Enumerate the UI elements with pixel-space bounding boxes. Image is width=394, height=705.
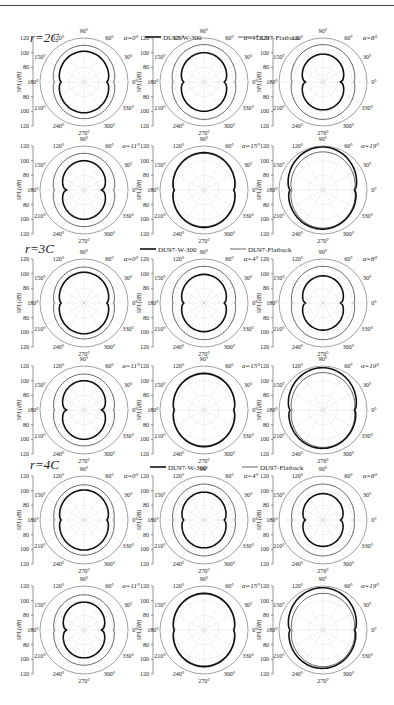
y-axis-label: SPL(dB) xyxy=(256,72,263,93)
angle-label: 210° xyxy=(34,213,46,219)
y-tick-label: 100 xyxy=(20,158,29,164)
curve-du97-w-300 xyxy=(288,147,357,229)
angle-label: 210° xyxy=(34,543,46,549)
alpha-label: α=4° xyxy=(244,34,259,42)
angle-label: 90° xyxy=(80,466,89,472)
polar-panel: 1201008080100120SPL(dB)0°30°60°90°120°15… xyxy=(136,249,259,357)
y-tick-label: 100 xyxy=(20,329,29,335)
alpha-label: α=15° xyxy=(242,142,260,150)
angle-label: 30° xyxy=(124,492,133,498)
angle-label: 210° xyxy=(273,543,285,549)
y-tick-label: 120 xyxy=(140,143,149,149)
polar-panel: 1201008080100120SPL(dB)0°30°60°90°120°15… xyxy=(136,576,260,684)
y-tick-label: 120 xyxy=(20,451,29,457)
y-axis-label: SPL(dB) xyxy=(16,180,23,201)
angle-label: 120° xyxy=(173,143,185,149)
angle-label: 300° xyxy=(104,231,116,237)
y-tick-label: 100 xyxy=(20,546,29,552)
angle-label: 180° xyxy=(27,407,39,413)
angle-label: 180° xyxy=(266,300,278,306)
angle-label: 210° xyxy=(154,653,166,659)
angle-label: 60° xyxy=(344,473,353,479)
angle-label: 300° xyxy=(224,671,236,677)
y-tick-label: 120 xyxy=(260,671,269,677)
y-axis-label: SPL(dB) xyxy=(256,293,263,314)
angle-label: 60° xyxy=(105,473,114,479)
angle-label: 270° xyxy=(198,238,210,244)
angle-label: 180° xyxy=(147,407,159,413)
angle-label: 120° xyxy=(292,583,304,589)
angle-label: 300° xyxy=(343,671,355,677)
angle-label: 210° xyxy=(34,326,46,332)
y-tick-label: 120 xyxy=(20,583,29,589)
polar-panel: 1201008080100120SPL(dB)0°30°60°90°120°15… xyxy=(256,136,379,244)
y-axis-label: SPL(dB) xyxy=(136,510,143,531)
angle-label: 90° xyxy=(80,136,89,142)
angle-label: 60° xyxy=(105,256,114,262)
y-tick-label: 120 xyxy=(20,256,29,262)
y-tick-label: 120 xyxy=(20,344,29,350)
y-tick-label: 120 xyxy=(140,123,149,129)
angle-label: 60° xyxy=(105,363,114,369)
angle-label: 90° xyxy=(319,466,328,472)
legend: DU97-W-300DU97-Flatback xyxy=(140,246,292,254)
angle-label: 270° xyxy=(198,568,210,574)
angle-label: 30° xyxy=(244,54,253,60)
angle-label: 240° xyxy=(173,231,185,237)
y-tick-label: 80 xyxy=(143,642,149,648)
y-tick-label: 80 xyxy=(143,172,149,178)
angle-label: 90° xyxy=(80,356,89,362)
polar-panel: 1201008080100120SPL(dB)0°30°60°90°120°15… xyxy=(16,249,139,357)
angle-label: 300° xyxy=(104,561,116,567)
y-tick-label: 80 xyxy=(23,642,29,648)
angle-label: 0° xyxy=(371,79,377,85)
angle-label: 330° xyxy=(242,653,254,659)
angle-label: 240° xyxy=(292,671,304,677)
y-tick-label: 100 xyxy=(260,158,269,164)
angle-label: 30° xyxy=(124,54,133,60)
angle-label: 210° xyxy=(34,433,46,439)
angle-label: 180° xyxy=(27,187,39,193)
angle-label: 150° xyxy=(34,275,46,281)
angle-label: 330° xyxy=(242,105,254,111)
angle-label: 240° xyxy=(292,231,304,237)
angle-label: 120° xyxy=(292,143,304,149)
angle-label: 60° xyxy=(344,143,353,149)
angle-label: 90° xyxy=(319,356,328,362)
angle-label: 0° xyxy=(371,627,377,633)
y-tick-label: 80 xyxy=(143,285,149,291)
y-tick-label: 100 xyxy=(260,271,269,277)
angle-label: 150° xyxy=(273,275,285,281)
y-tick-label: 100 xyxy=(260,656,269,662)
angle-label: 270° xyxy=(78,238,90,244)
angle-label: 120° xyxy=(173,583,185,589)
angle-label: 300° xyxy=(343,344,355,350)
y-axis-label: SPL(dB) xyxy=(256,620,263,641)
angle-label: 90° xyxy=(200,466,209,472)
angle-label: 330° xyxy=(361,433,373,439)
alpha-label: α=8° xyxy=(363,472,378,480)
y-tick-label: 100 xyxy=(140,158,149,164)
y-tick-label: 120 xyxy=(140,35,149,41)
angle-label: 90° xyxy=(200,136,209,142)
section-r-4c: r=4CDU97-W-300DU97-Flatback1201008080100… xyxy=(16,457,379,684)
y-tick-label: 100 xyxy=(20,50,29,56)
y-tick-label: 100 xyxy=(140,271,149,277)
angle-label: 270° xyxy=(78,568,90,574)
angle-label: 240° xyxy=(173,451,185,457)
angle-label: 330° xyxy=(122,213,134,219)
angle-label: 90° xyxy=(200,28,209,34)
y-tick-label: 100 xyxy=(260,216,269,222)
alpha-label: α=11° xyxy=(122,362,140,370)
angle-label: 60° xyxy=(225,583,234,589)
angle-label: 330° xyxy=(122,433,134,439)
angle-label: 240° xyxy=(53,561,65,567)
section-label: r=3C xyxy=(25,241,54,256)
y-tick-label: 100 xyxy=(140,488,149,494)
angle-label: 150° xyxy=(34,492,46,498)
angle-label: 270° xyxy=(78,678,90,684)
angle-label: 60° xyxy=(225,363,234,369)
alpha-label: α=11° xyxy=(122,582,140,590)
alpha-label: α=4° xyxy=(244,472,259,480)
angle-label: 60° xyxy=(225,143,234,149)
